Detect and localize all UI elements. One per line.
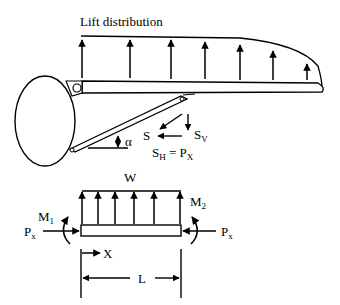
s-label: S [143,128,150,143]
w-label: W [124,170,137,185]
m1-label: M1 [38,209,54,226]
px-left-label: Px [24,224,36,241]
wing [82,81,323,93]
l-label: L [138,271,146,286]
fuselage [15,76,75,166]
lift-arrows [82,40,307,80]
sh-equals-px-label: SH = PX [152,145,194,162]
x-label: X [103,246,113,261]
wing-hinge [73,84,81,92]
px-right-label: Px [221,224,233,241]
lift-distribution-label: Lift distribution [80,14,163,29]
beam [81,225,181,236]
sv-label: SV [194,127,208,144]
lift-envelope [81,36,322,88]
alpha-label: α [125,134,132,149]
strut-braced-wing-diagram: Lift distribution α S SV SH = PX W [0,0,340,305]
distributed-load-arrows [82,192,180,224]
m2-label: M2 [190,194,206,211]
